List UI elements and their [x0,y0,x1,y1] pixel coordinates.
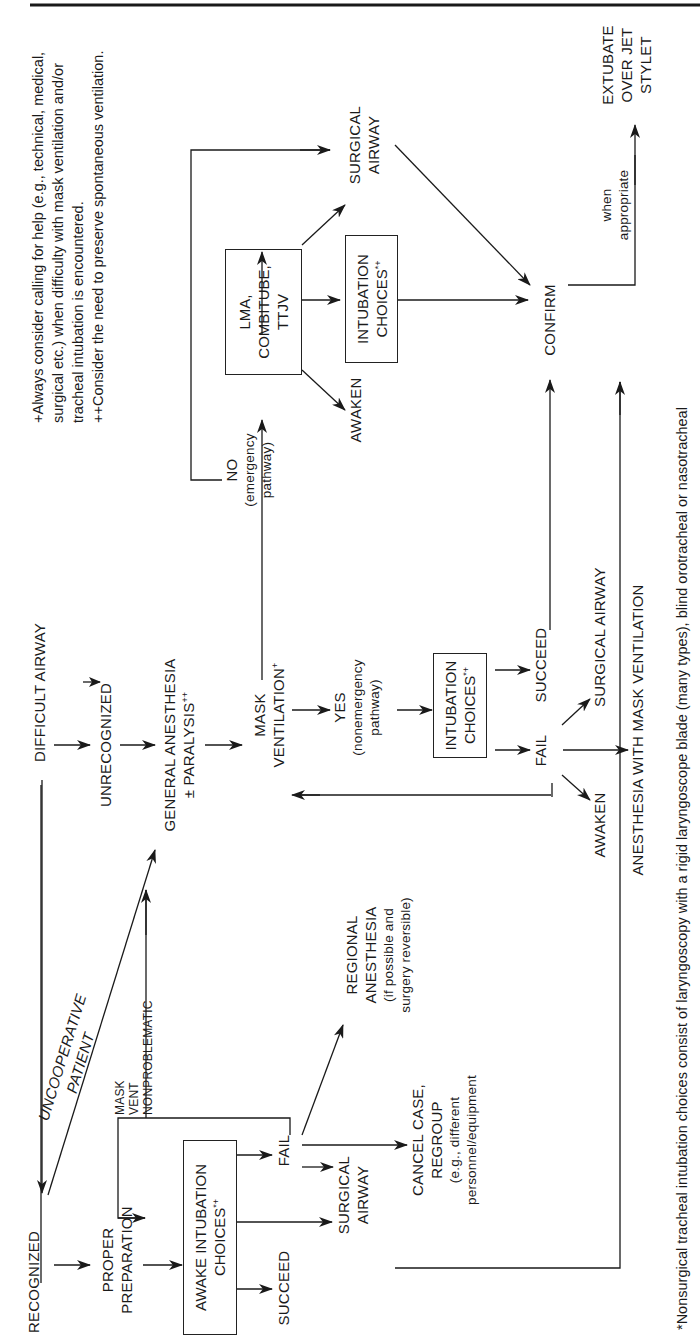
intubation-line: INTUBATION [441,661,460,751]
star-plus-marker: *+ [373,260,383,269]
choices-line: CHOICES*+ [460,661,479,751]
node-general-anesthesia: GENERAL ANESTHESIA ± PARALYSIS++ [160,635,198,855]
yes-label: YES [330,650,349,765]
airway-line: AIRWAY [364,85,383,205]
emergency-line1: (emergency [241,420,258,520]
airway-line: AIRWAY [353,1140,372,1250]
choices-label: CHOICES [211,1208,228,1276]
star-plus-marker: *+ [211,1199,221,1208]
node-anesthesia-with-mask-ventilation: ANESTHESIA WITH MASK VENTILATION [628,580,647,880]
note-plus-line3: tracheal intubation is encountered. [68,51,88,423]
node-difficult-airway: DIFFICULT AIRWAY [30,605,49,780]
general-anesthesia-line2: ± PARALYSIS++ [179,635,198,855]
node-mask-ventilation: MASK VENTILATION+ [250,640,288,790]
node-unrecognized: UNRECOGNIZED [96,675,115,815]
regional-condition-line2: surgery reversible) [397,875,414,1035]
appropriate-line: appropriate [615,150,632,260]
stylet-line: STYLET [636,10,655,120]
node-nonemergency-awaken: AWAKEN [590,780,609,870]
node-lma-combitube-ttjv: LMA, COMBITUBE, TTJV [225,249,302,375]
awake-intubation-line1: AWAKE INTUBATION [191,1164,210,1311]
mask-ventilation-line1: MASK [250,640,269,790]
general-anesthesia-line1: GENERAL ANESTHESIA [160,635,179,855]
node-yes: YES (nonemergency pathway) [330,650,383,765]
node-recognized: RECOGNIZED [24,1233,43,1333]
note-plus-line2: surgical etc.) when difficulty with mask… [48,51,68,423]
proper-line: PROPER [98,1195,117,1325]
node-emergency-surgical-airway: SURGICAL AIRWAY [345,85,383,205]
difficult-airway-flowchart: RECOGNIZED DIFFICULT AIRWAY UNRECOGNIZED… [0,0,700,1335]
intubation-line: INTUBATION [353,254,372,344]
regional-condition-line1: (if possible and [380,875,397,1035]
node-cancel-case: CANCEL CASE, REGROUP (e.g., different pe… [408,1050,480,1230]
note-plus-line1: +Always consider calling for help (e.g.,… [28,51,48,423]
node-intubation-choices-emergency: INTUBATION CHOICES*+ [345,235,398,363]
label-mask-vent-nonproblematic: MASK VENT NONPROBLEMATIC [113,975,155,1115]
node-awake-succeed: SUCCEED [274,1243,293,1333]
combitube-line: COMBITUBE, [254,265,273,358]
regroup-line: REGROUP [427,1050,446,1230]
plus-marker: + [270,663,280,668]
node-regional-anesthesia: REGIONAL ANESTHESIA (if possible and sur… [342,875,414,1035]
node-nonemergency-fail: FAIL [531,728,550,773]
anesthesia-line: ANESTHESIA [361,875,380,1035]
choices-label: CHOICES [373,269,390,337]
when-line: when [598,150,615,260]
cancel-example-line1: (e.g., different [446,1050,463,1230]
note-double-plus: ++Consider the need to preserve spontane… [88,51,108,423]
mask-ventilation-line2: VENTILATION+ [269,640,288,790]
emergency-line2: pathway) [258,420,275,520]
choices-label: CHOICES [461,676,478,744]
mask-vent-line3: NONPROBLEMATIC [141,975,155,1115]
node-emergency-awaken: AWAKEN [346,365,365,455]
cancel-example-line2: personnel/equipment [463,1050,480,1230]
ventilation-label: VENTILATION [270,668,287,767]
paralysis-label: ± PARALYSIS [180,703,197,799]
cancel-case-line: CANCEL CASE, [408,1050,427,1230]
node-nonemergency-surgical-airway: SURGICAL AIRWAY [590,547,609,707]
star-plus-marker: *+ [461,667,471,676]
extubate-line: EXTUBATE [598,10,617,120]
surgical-line: SURGICAL [345,85,364,205]
node-nonemergency-succeed: SUCCEED [531,625,550,705]
node-no: NO (emergency pathway) [222,420,275,520]
node-proper-preparation: PROPER PREPARATION [98,1195,136,1325]
node-awake-fail: FAIL [274,1128,293,1173]
node-awake-surgical-airway: SURGICAL AIRWAY [334,1140,372,1250]
no-label: NO [222,420,241,520]
preparation-line: PREPARATION [117,1195,136,1325]
footnote-nonsurgical-choices: *Nonsurgical tracheal intubation choices… [672,407,692,1330]
ttjv-line: TTJV [273,265,292,358]
mask-vent-line2: VENT [127,975,141,1115]
lma-line: LMA, [235,265,254,358]
over-jet-line: OVER JET [617,10,636,120]
choices-line: CHOICES*+ [372,254,391,344]
awake-intubation-line2: CHOICES*+ [210,1164,229,1311]
double-plus-marker: ++ [180,692,190,703]
node-extubate-over-jet-stylet: EXTUBATE OVER JET STYLET [598,10,655,120]
mask-vent-line1: MASK [113,975,127,1115]
notes-block: +Always consider calling for help (e.g.,… [28,51,108,423]
nonemergency-line1: (nonemergency [349,650,366,765]
regional-line: REGIONAL [342,875,361,1035]
node-intubation-choices-nonemergency: INTUBATION CHOICES*+ [433,653,487,758]
surgical-line: SURGICAL [334,1140,353,1250]
label-when-appropriate: when appropriate [598,150,632,260]
node-awake-intubation-choices: AWAKE INTUBATION CHOICES*+ [183,1140,237,1335]
nonemergency-line2: pathway) [366,650,383,765]
node-confirm: CONFIRM [540,265,559,375]
